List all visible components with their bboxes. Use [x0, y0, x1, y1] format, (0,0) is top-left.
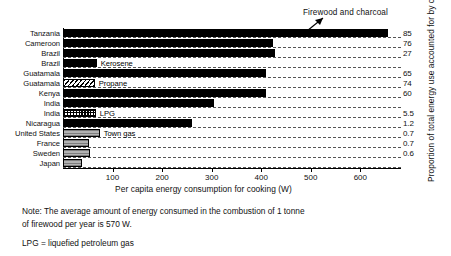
bar-tag-town-gas: Town gas: [104, 129, 136, 138]
percent-label-cameroon: 76: [403, 39, 412, 48]
category-label-brazil: Brazil: [41, 49, 60, 58]
category-label-japan: Japan: [40, 159, 60, 168]
bar-india-lpg: [63, 109, 96, 116]
chart-notes: Note: The average amount of energy consu…: [22, 205, 422, 250]
gridline: [63, 157, 401, 158]
category-label-guatamala: Guatamala: [23, 79, 60, 88]
category-label-france: France: [37, 139, 60, 148]
x-tick: [360, 168, 361, 172]
x-tick: [212, 168, 213, 172]
x-tick-label: 300: [205, 173, 218, 182]
x-tick-label: 200: [155, 173, 168, 182]
x-tick-label: 600: [354, 173, 367, 182]
bar-tag-kerosene: Kerosene: [101, 59, 133, 68]
percent-label-tanzania: 85: [403, 29, 412, 38]
bar-cameroon-firewood-and-charcoal: [63, 39, 273, 46]
bar-guatamala-firewood-and-charcoal: [63, 69, 266, 76]
gridline: [63, 47, 401, 48]
category-label-tanzania: Tanzania: [30, 29, 60, 38]
category-label-brazil: Brazil: [41, 59, 60, 68]
category-label-kenya: Kenya: [39, 89, 60, 98]
bar-guatamala-propane: [63, 79, 95, 86]
bar-tag-lpg: LPG: [100, 109, 115, 118]
category-label-guatamala: Guatamala: [23, 69, 60, 78]
bar-india-firewood-and-charcoal: [63, 99, 214, 106]
percent-label-brazil: 27: [403, 49, 412, 58]
x-tick-label: 100: [106, 173, 119, 182]
x-axis-title: Per capita energy consumption for cookin…: [0, 184, 429, 194]
note-line-3: LPG = liquefied petroleum gas: [22, 237, 422, 250]
gridline: [63, 37, 401, 38]
bar-kenya-firewood-and-charcoal: [63, 89, 266, 96]
category-label-india: India: [44, 109, 60, 118]
category-label-sweden: Sweden: [33, 149, 60, 158]
bar-tag-propane: Propane: [99, 79, 127, 88]
bar-brazil-firewood-and-charcoal: [63, 49, 275, 56]
x-axis-line: [63, 168, 401, 169]
gridline: [63, 167, 401, 168]
bar-france-town-gas: [63, 139, 89, 146]
x-tick: [261, 168, 262, 172]
gridline: [63, 147, 401, 148]
x-tick: [311, 168, 312, 172]
category-label-cameroon: Cameroon: [25, 39, 60, 48]
category-label-india: India: [44, 99, 60, 108]
bar-tanzania-firewood-and-charcoal: [63, 29, 388, 36]
note-line-1: Note: The average amount of energy consu…: [22, 205, 422, 218]
chart-container: Firewood and charcoal 100200300400500600…: [0, 0, 451, 256]
percent-label-guatamala: 74: [403, 79, 412, 88]
x-tick-label: 400: [255, 173, 268, 182]
category-label-united-states: United States: [15, 129, 60, 138]
bar-japan-town-gas: [63, 159, 82, 166]
percent-label-sweden: 0.6: [403, 149, 414, 158]
bar-sweden-town-gas: [63, 149, 90, 156]
note-line-2: of firewood per year is 570 W.: [22, 218, 422, 231]
percent-label-france: 0.7: [403, 139, 414, 148]
percent-label-guatamala: 65: [403, 69, 412, 78]
bar-brazil-kerosene: [63, 59, 97, 66]
gridline: [63, 97, 401, 98]
x-tick-label: 500: [304, 173, 317, 182]
x-tick: [113, 168, 114, 172]
percent-label-india: 5.5: [403, 109, 414, 118]
category-label-nicaragua: Nicaragua: [26, 119, 60, 128]
x-tick: [162, 168, 163, 172]
y2-axis-title: Proportion of total energy use accounted…: [426, 0, 440, 182]
percent-label-nicaragua: 1.2: [403, 119, 414, 128]
bar-nicaragua-firewood-and-charcoal: [63, 119, 192, 126]
bar-united-states-town-gas: [63, 129, 100, 136]
percent-label-united-states: 0.7: [403, 129, 414, 138]
percent-label-kenya: 60: [403, 89, 412, 98]
